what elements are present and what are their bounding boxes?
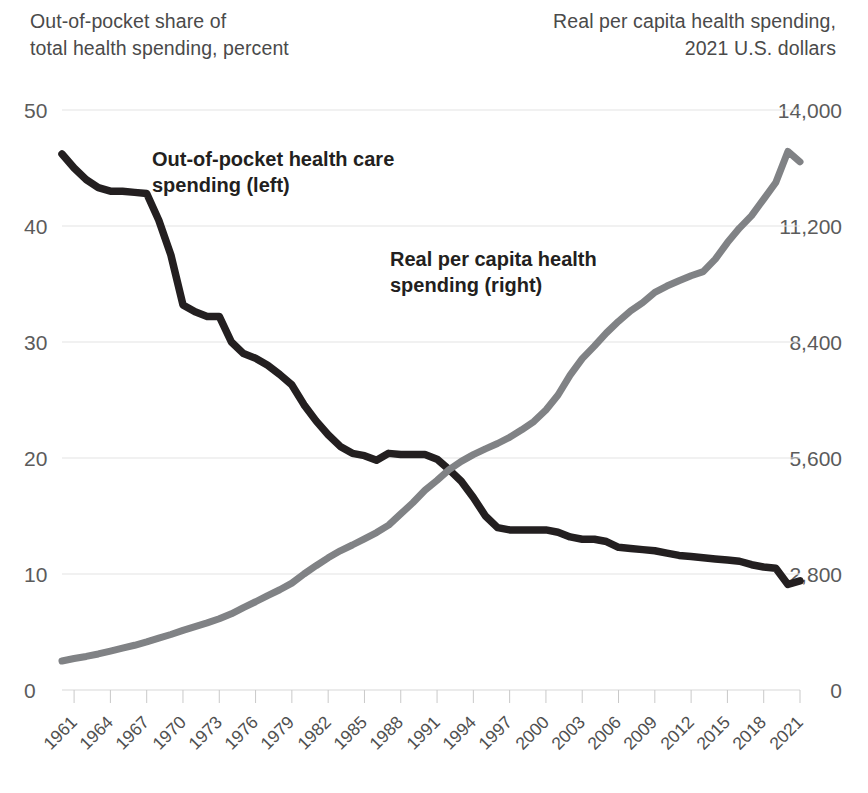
x-axis-tick-label: 1994 bbox=[438, 712, 480, 754]
x-axis-tick-label: 1973 bbox=[184, 712, 226, 754]
out-of-pocket-series-label: Out-of-pocket health care spending (left… bbox=[152, 146, 394, 198]
real-per-capita-line bbox=[62, 151, 800, 661]
x-axis-tick-label: 2009 bbox=[620, 712, 662, 754]
x-axis-tick-label: 1976 bbox=[221, 712, 263, 754]
x-axis-tick-label: 1970 bbox=[148, 712, 190, 754]
real-per-capita-series-label: Real per capita health spending (right) bbox=[390, 246, 597, 298]
left-axis-title: Out-of-pocket share of total health spen… bbox=[30, 8, 289, 62]
x-axis-tick-label: 1991 bbox=[402, 712, 444, 754]
x-axis-ticks bbox=[0, 690, 868, 716]
x-axis-tick-label: 2015 bbox=[692, 712, 734, 754]
x-axis-tick-label: 2003 bbox=[547, 712, 589, 754]
out-of-pocket-line bbox=[62, 154, 800, 584]
left-axis-tick-label: 50 bbox=[24, 100, 47, 121]
left-axis-tick-label: 20 bbox=[24, 448, 47, 469]
x-axis-tick-label: 2018 bbox=[729, 712, 771, 754]
x-axis-tick-label: 2006 bbox=[584, 712, 626, 754]
x-axis-tick-label: 1961 bbox=[39, 712, 81, 754]
x-axis-tick-label: 1988 bbox=[366, 712, 408, 754]
x-axis-tick-label: 1985 bbox=[329, 712, 371, 754]
x-axis-tick-label: 1982 bbox=[293, 712, 335, 754]
left-axis-tick-label: 10 bbox=[24, 564, 47, 585]
x-axis-tick-label: 1979 bbox=[257, 712, 299, 754]
left-axis-tick-label: 40 bbox=[24, 216, 47, 237]
x-axis-tick-label: 2000 bbox=[511, 712, 553, 754]
left-axis-tick-label: 30 bbox=[24, 332, 47, 353]
x-axis-tick-label: 2012 bbox=[656, 712, 698, 754]
x-axis-tick-label: 1964 bbox=[75, 712, 117, 754]
x-axis-tick-label: 1997 bbox=[475, 712, 517, 754]
x-axis-tick-label: 2021 bbox=[765, 712, 807, 754]
x-axis-tick-label: 1967 bbox=[112, 712, 154, 754]
dual-axis-line-chart: Out-of-pocket share of total health spen… bbox=[0, 0, 868, 793]
right-axis-title: Real per capita health spending, 2021 U.… bbox=[553, 8, 836, 62]
